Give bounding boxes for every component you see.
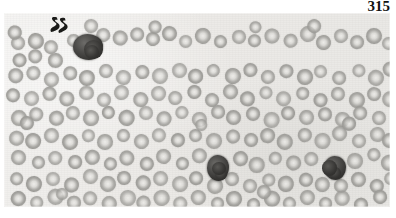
erythrocyte <box>382 133 390 149</box>
erythrocyte <box>6 66 24 84</box>
erythrocyte <box>369 108 389 128</box>
erythrocyte <box>24 131 43 150</box>
erythrocyte <box>131 132 152 153</box>
erythrocyte <box>226 110 242 126</box>
erythrocyte <box>303 151 319 167</box>
erythrocyte <box>297 171 314 188</box>
erythrocyte <box>223 188 245 207</box>
erythrocyte <box>230 28 248 46</box>
erythrocyte <box>206 63 221 78</box>
blood-smear-micrograph <box>4 13 390 207</box>
erythrocyte <box>153 108 175 130</box>
erythrocyte <box>293 85 312 104</box>
erythrocyte <box>296 107 317 128</box>
erythrocyte <box>154 146 174 166</box>
erythrocyte <box>176 32 195 51</box>
erythrocyte <box>79 127 98 146</box>
erythrocyte <box>23 173 45 195</box>
erythrocyte <box>66 153 84 171</box>
erythrocyte <box>27 193 45 207</box>
erythrocyte <box>316 194 334 207</box>
erythrocyte <box>22 89 42 109</box>
erythrocyte <box>48 111 64 127</box>
erythrocyte <box>258 126 277 145</box>
erythrocyte <box>6 128 26 148</box>
erythrocyte <box>169 131 188 150</box>
erythrocyte <box>26 47 44 65</box>
erythrocyte <box>192 25 214 47</box>
erythrocyte <box>48 53 64 69</box>
erythrocyte <box>160 24 181 45</box>
erythrocyte <box>283 153 303 173</box>
erythrocyte <box>116 108 137 129</box>
erythrocyte <box>268 150 283 165</box>
erythrocyte <box>295 125 314 144</box>
erythrocyte <box>97 92 112 107</box>
erythrocyte <box>241 61 259 79</box>
erythrocyte <box>23 63 43 83</box>
erythrocyte <box>138 154 156 172</box>
nucleated-cell-center <box>207 155 229 181</box>
erythrocyte <box>383 172 390 187</box>
erythrocyte <box>367 86 382 101</box>
erythrocyte <box>150 125 170 145</box>
erythrocyte <box>9 171 25 187</box>
erythrocyte <box>99 193 120 207</box>
erythrocyte <box>61 65 78 82</box>
erythrocyte <box>261 70 275 84</box>
erythrocyte <box>119 189 137 207</box>
erythrocyte <box>223 126 242 145</box>
erythrocyte <box>347 169 368 190</box>
erythrocyte <box>280 194 298 207</box>
erythrocyte <box>114 126 132 144</box>
erythrocyte <box>276 61 296 81</box>
erythrocyte <box>171 193 191 207</box>
erythrocyte <box>382 91 390 107</box>
erythrocyte <box>117 147 138 168</box>
erythrocyte <box>187 168 206 187</box>
erythrocyte <box>211 197 224 207</box>
erythrocyte <box>381 35 390 51</box>
nucleus-lobe <box>322 160 337 175</box>
erythrocyte <box>350 61 369 80</box>
erythrocyte <box>203 129 225 151</box>
nucleated-cell-right <box>324 156 346 180</box>
erythrocyte <box>152 188 171 207</box>
erythrocyte <box>94 131 117 154</box>
erythrocyte <box>59 131 82 154</box>
erythrocyte <box>80 188 100 207</box>
erythrocyte <box>243 105 262 124</box>
erythrocyte <box>135 194 153 207</box>
erythrocyte <box>127 24 147 44</box>
erythrocyte <box>169 60 190 81</box>
erythrocyte <box>347 32 367 52</box>
erythrocyte <box>31 155 46 170</box>
erythrocyte <box>314 132 332 150</box>
erythrocyte <box>230 148 251 169</box>
erythrocyte <box>185 83 203 101</box>
erythrocyte <box>114 168 133 187</box>
erythrocyte <box>79 86 93 100</box>
erythrocyte <box>8 188 28 207</box>
erythrocyte <box>41 125 62 146</box>
erythrocyte <box>243 133 258 148</box>
erythrocyte <box>67 196 81 207</box>
erythrocyte <box>103 157 118 172</box>
erythrocyte <box>314 34 332 52</box>
erythrocyte <box>153 171 169 187</box>
erythrocyte <box>148 65 170 87</box>
erythrocyte <box>246 18 264 36</box>
erythrocyte <box>313 64 329 80</box>
erythrocyte <box>174 155 192 173</box>
erythrocyte <box>96 61 115 80</box>
nucleated-cell-top-left <box>73 34 103 60</box>
page-number: 315 <box>368 0 391 14</box>
erythrocyte <box>264 28 279 43</box>
nucleus-lobe <box>212 162 226 176</box>
erythrocyte <box>317 106 333 122</box>
erythrocyte <box>329 68 349 88</box>
erythrocyte <box>46 172 60 186</box>
erythrocyte <box>79 166 100 187</box>
erythrocyte <box>277 174 296 193</box>
erythrocyte <box>167 90 184 107</box>
